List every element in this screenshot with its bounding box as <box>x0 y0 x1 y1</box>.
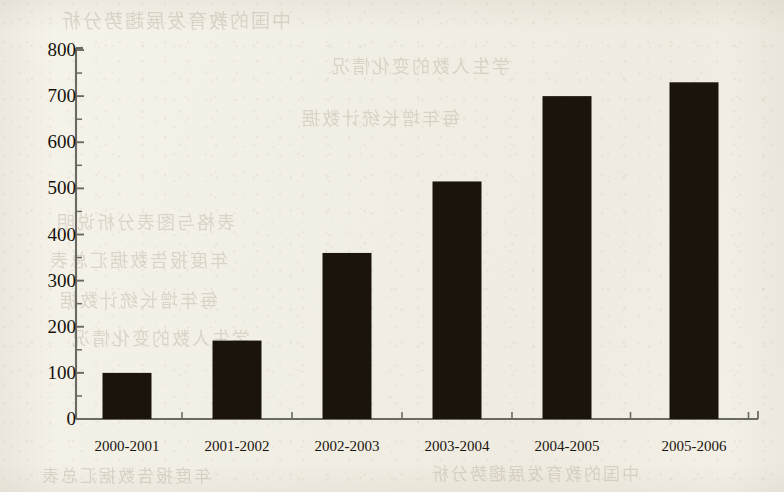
x-axis-category-label: 2005-2006 <box>639 437 749 455</box>
y-axis-tick-label: 100 <box>30 363 76 382</box>
x-axis-category-label: 2004-2005 <box>512 437 622 455</box>
y-axis-tick-label: 400 <box>30 225 76 244</box>
bar-rect[interactable] <box>433 181 482 419</box>
bar-rect[interactable] <box>103 373 152 419</box>
y-axis-tick-label: 0 <box>30 409 76 428</box>
x-axis-category-label: 2000-2001 <box>72 437 182 455</box>
y-axis-tick-label: 500 <box>30 178 76 197</box>
bar-rect[interactable] <box>213 341 262 419</box>
bar-rect[interactable] <box>670 82 719 419</box>
y-axis-tick-label: 600 <box>30 132 76 151</box>
x-axis-category-label: 2003-2004 <box>402 437 512 455</box>
y-axis-tick-labels: 0100200300400500600700800 <box>30 0 76 492</box>
y-axis-tick-label: 300 <box>30 271 76 290</box>
chart-plot-svg <box>0 0 784 492</box>
y-axis-tick-label: 200 <box>30 317 76 336</box>
bar-rect[interactable] <box>323 253 372 419</box>
bar-chart: 0100200300400500600700800 2000-20012001-… <box>0 0 784 492</box>
y-axis-tick-label: 800 <box>30 40 76 59</box>
x-axis-tick-labels: 2000-20012001-20022002-20032003-20042004… <box>0 437 784 467</box>
scanned-page: 中国的教育发展趨势分析 学生人数的变化情况 每年增长统计数据 表格与图表分析说明… <box>0 0 784 492</box>
x-axis-category-label: 2002-2003 <box>292 437 402 455</box>
bar-rect[interactable] <box>543 96 592 419</box>
x-axis-category-label: 2001-2002 <box>182 437 292 455</box>
y-axis-tick-label: 700 <box>30 86 76 105</box>
